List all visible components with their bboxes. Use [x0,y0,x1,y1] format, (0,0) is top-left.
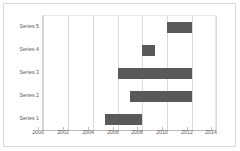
x-axis-label-2008: 2008 [131,130,143,135]
bar-series-3 [118,68,192,79]
y-axis-label-series-1: Series 1 [20,116,39,121]
x-axis-label-2000: 2000 [32,130,44,135]
y-axis-label-series-4: Series 4 [20,47,39,52]
y-axis-label-series-3: Series 3 [20,70,39,75]
bar-series-1 [105,114,142,125]
x-axis-label-2010: 2010 [156,130,168,135]
x-axis-label-2014: 2014 [205,130,217,135]
chart-screenshot: Series 5 Series 4 Series 3 Series 2 Seri… [0,0,240,151]
chart-frame: Series 5 Series 4 Series 3 Series 2 Seri… [3,3,236,147]
bars-layer [43,16,215,130]
x-axis-tick-labels: 2000 2002 2004 2006 2008 2010 2012 2014 [0,130,240,142]
x-axis-label-2012: 2012 [181,130,193,135]
y-axis-label-series-5: Series 5 [20,24,39,29]
x-axis-label-2006: 2006 [107,130,119,135]
gridline-2014 [216,16,217,130]
x-axis-label-2004: 2004 [82,130,94,135]
y-axis-category-labels: Series 5 Series 4 Series 3 Series 2 Seri… [7,15,42,131]
bar-series-2 [130,91,192,102]
bar-series-4 [142,45,155,56]
plot-area [42,15,216,131]
x-axis-label-2002: 2002 [57,130,69,135]
y-axis-label-series-2: Series 2 [20,93,39,98]
bar-series-5 [167,22,192,33]
